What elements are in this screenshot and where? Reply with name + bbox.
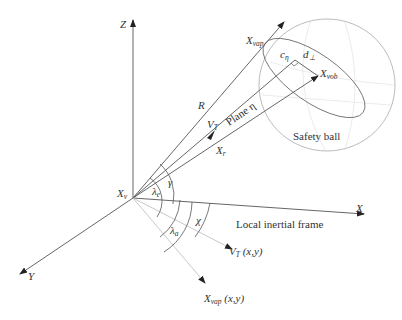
- origin-label: Xv: [116, 187, 128, 201]
- proj-xvap: [133, 198, 205, 283]
- projections: [133, 198, 232, 283]
- x-axis-label: X: [355, 202, 364, 214]
- ray-xr: [133, 76, 318, 198]
- perp-d: [295, 60, 318, 76]
- y-axis: [20, 198, 133, 274]
- rays: [133, 22, 318, 198]
- local-frame-caption: Local inertial frame: [236, 218, 323, 230]
- vt-label: VT: [207, 118, 219, 132]
- safety-ball-caption: Safety ball: [293, 130, 340, 142]
- d-perp-label: d⊥: [303, 48, 316, 62]
- proj-vt: [133, 198, 232, 249]
- vt-xy-label: VT (x,y): [229, 245, 263, 259]
- xvap-label: Xvap: [245, 34, 264, 48]
- diagram-canvas: Z X Y Xv R VT Xr Plane η Xvap Xvob cη d⊥…: [0, 0, 402, 320]
- x-axis: [133, 198, 364, 214]
- xvap-xy-label: Xvap (x,y): [203, 292, 245, 306]
- ray-r: [133, 22, 284, 198]
- angle-arcs: [150, 164, 210, 252]
- lambda-a-label: λa: [169, 224, 179, 238]
- r-label: R: [197, 99, 205, 111]
- plane-eta-label: Plane η: [223, 99, 257, 128]
- z-axis-label: Z: [120, 18, 127, 30]
- xvob-label: Xvob: [319, 67, 338, 81]
- xr-label: Xr: [215, 144, 226, 158]
- c-eta-label: cη: [280, 48, 289, 62]
- lambda-e-label: λe: [151, 185, 161, 199]
- y-axis-label: Y: [28, 270, 36, 282]
- chi-label: χ: [195, 214, 202, 226]
- gamma-label: γ: [168, 176, 173, 188]
